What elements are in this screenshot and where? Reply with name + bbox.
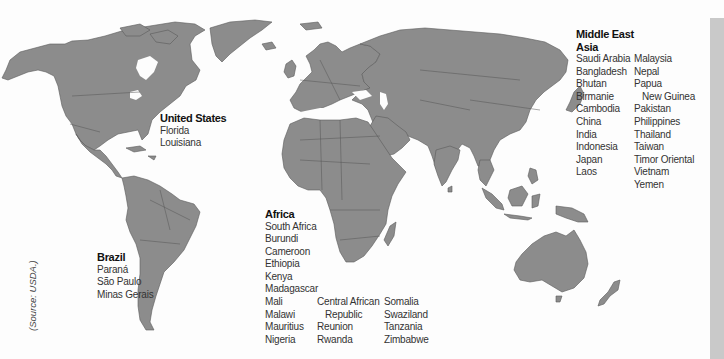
australia-landmass: [514, 230, 588, 292]
source-note: (Source: USDA.): [27, 251, 41, 331]
location-label: Taiwan: [634, 141, 695, 154]
location-label: Laos: [576, 166, 634, 179]
location-label: Kenya: [265, 271, 429, 284]
location-label: Swaziland: [384, 309, 429, 322]
region-label-brazil: Brazil Paraná São Paulo Minas Gerais: [97, 251, 154, 301]
location-label: Ethiopia: [265, 258, 429, 271]
location-label: Birmanie: [576, 91, 634, 104]
source-note-text: (Source: USDA.): [27, 260, 38, 331]
location-label: São Paulo: [97, 276, 154, 289]
location-label: Pakistan: [634, 103, 695, 116]
region-title: Brazil: [97, 251, 154, 264]
location-label: Paraná: [97, 264, 154, 277]
location-label: Rwanda: [317, 334, 384, 347]
location-label: Florida: [160, 125, 226, 138]
india-landmass: [434, 146, 460, 186]
location-label: Madagascar: [265, 283, 429, 296]
location-label: Malaysia: [634, 53, 695, 66]
location-label: Papua: [634, 78, 695, 91]
location-label: China: [576, 116, 634, 129]
location-label: Minas Gerais: [97, 289, 154, 302]
location-label: Tanzania: [384, 321, 429, 334]
greenland-landmass: [210, 20, 272, 62]
region-label-middle-east-asia: Middle East Asia Saudi Arabia Bangladesh…: [576, 28, 695, 192]
location-label: Bhutan: [576, 78, 634, 91]
location-label: Burundi: [265, 233, 429, 246]
location-label: Cambodia: [576, 103, 634, 116]
location-label: Nepal: [634, 66, 695, 79]
location-label: Thailand: [634, 129, 695, 142]
location-label: Reunion: [317, 321, 384, 334]
region-title: United States: [160, 112, 226, 125]
location-label: Cameroon: [265, 246, 429, 259]
location-label: South Africa: [265, 221, 429, 234]
location-label: Nigeria: [265, 334, 317, 347]
location-label: Louisiana: [160, 137, 226, 150]
world-map: United States Florida Louisiana Brazil P…: [0, 0, 724, 359]
region-title-line2: Asia: [576, 41, 695, 54]
location-label: Malawi: [265, 309, 317, 322]
region-label-united-states: United States Florida Louisiana: [160, 112, 226, 150]
location-label: India: [576, 129, 634, 142]
location-label: Mauritius: [265, 321, 317, 334]
location-label: Vietnam: [634, 166, 695, 179]
location-label: New Guinea: [634, 91, 695, 104]
location-label: Central African: [317, 296, 384, 309]
location-label: Zimbabwe: [384, 334, 429, 347]
region-title-line1: Middle East: [576, 28, 695, 41]
region-title: Africa: [265, 208, 429, 221]
location-label: Saudi Arabia: [576, 53, 634, 66]
location-label: Philippines: [634, 116, 695, 129]
new-guinea-landmass: [556, 206, 588, 222]
location-label: Yemen: [634, 179, 695, 192]
location-label: Mali: [265, 296, 317, 309]
location-label: Japan: [576, 154, 634, 167]
side-strip: [710, 18, 724, 359]
region-label-africa: Africa South Africa Burundi Cameroon Eth…: [265, 208, 429, 346]
location-label: Somalia: [384, 296, 429, 309]
location-label: Bangladesh: [576, 66, 634, 79]
location-label: Indonesia: [576, 141, 634, 154]
location-label: Timor Oriental: [634, 154, 695, 167]
location-label: Republic: [317, 309, 384, 322]
